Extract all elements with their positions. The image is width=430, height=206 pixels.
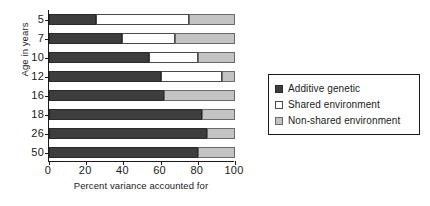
bar-row	[49, 33, 234, 44]
y-axis-tick-labels: 57101216182650	[14, 10, 44, 162]
bar-row	[49, 14, 234, 25]
legend-item[interactable]: Shared environment	[275, 97, 414, 112]
y-axis-tick-label: 7	[14, 33, 44, 44]
legend-label: Shared environment	[288, 99, 380, 110]
bar-segment-additive	[49, 71, 161, 82]
legend-swatch-shared	[275, 101, 283, 109]
bar-segment-additive	[49, 33, 122, 44]
y-axis-tick-label: 26	[14, 128, 44, 139]
bar-segment-additive	[49, 147, 198, 158]
legend-label: Additive genetic	[288, 83, 360, 94]
x-axis-title: Percent variance accounted for	[48, 180, 234, 191]
bar-row	[49, 109, 234, 120]
stacked-bar-chart: Age in years 57101216182650 020406080100…	[0, 0, 430, 206]
legend-item[interactable]: Non-shared environment	[275, 113, 414, 128]
y-axis-tick-label: 16	[14, 90, 44, 101]
bar-segment-additive	[49, 90, 164, 101]
y-axis-tick-label: 18	[14, 109, 44, 120]
bar-segment-nonshared	[189, 14, 236, 25]
y-axis-tick-label: 5	[14, 14, 44, 25]
bar-segment-shared	[122, 33, 176, 44]
bar-row	[49, 52, 234, 63]
x-axis-tick-label: 100	[225, 164, 244, 176]
x-axis-tick-label: 0	[45, 164, 51, 176]
x-axis-tick-label: 20	[79, 164, 92, 176]
y-axis-tick-label: 12	[14, 71, 44, 82]
bar-segment-shared	[149, 52, 197, 63]
bar-segment-nonshared	[198, 52, 235, 63]
legend-label: Non-shared environment	[288, 115, 400, 126]
bar-segment-nonshared	[207, 128, 235, 139]
bar-row	[49, 71, 234, 82]
bar-segment-nonshared	[175, 33, 235, 44]
legend-item[interactable]: Additive genetic	[275, 81, 414, 96]
y-axis-tick-label: 50	[14, 147, 44, 158]
bar-segment-nonshared	[198, 147, 235, 158]
bar-segment-shared	[161, 71, 222, 82]
bar-row	[49, 147, 234, 158]
bar-segment-shared	[96, 14, 189, 25]
bar-row	[49, 128, 234, 139]
y-axis-tick-label: 10	[14, 52, 44, 63]
legend-swatch-additive	[275, 85, 283, 93]
bar-segment-additive	[49, 14, 96, 25]
bar-segment-nonshared	[202, 109, 235, 120]
bar-segment-nonshared	[164, 90, 235, 101]
legend-swatch-nonshared	[275, 117, 283, 125]
bar-row	[49, 90, 234, 101]
x-axis-tick-label: 40	[116, 164, 129, 176]
x-axis-tick-label: 60	[153, 164, 166, 176]
legend: Additive geneticShared environmentNon-sh…	[268, 74, 420, 135]
x-axis-tick-labels: 020406080100	[48, 164, 234, 178]
plot-area	[48, 10, 234, 162]
bar-segment-additive	[49, 109, 202, 120]
bar-segment-additive	[49, 52, 149, 63]
x-axis-tick-label: 80	[190, 164, 203, 176]
bar-segment-nonshared	[222, 71, 235, 82]
bar-segment-additive	[49, 128, 207, 139]
